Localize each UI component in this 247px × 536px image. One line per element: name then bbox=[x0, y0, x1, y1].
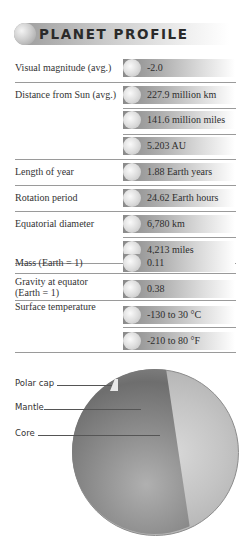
pill-ball-icon bbox=[123, 111, 141, 129]
value-text: -2.0 bbox=[147, 62, 163, 74]
value-pill: -210 to 80 °F bbox=[123, 332, 235, 350]
value-pill: 0.11 bbox=[123, 254, 235, 272]
row-label-rotation-period: Rotation period bbox=[15, 193, 78, 203]
divider bbox=[15, 185, 236, 186]
divider bbox=[15, 211, 236, 212]
pill-ball-icon bbox=[123, 215, 141, 233]
pill-ball-icon bbox=[123, 59, 141, 77]
divider bbox=[15, 352, 236, 353]
row-label-visual-magnitude: Visual magnitude (avg.) bbox=[15, 63, 111, 73]
divider bbox=[123, 327, 236, 328]
row-label-equatorial-diameter: Equatorial diameter bbox=[15, 219, 94, 229]
value-text: 0.38 bbox=[147, 283, 165, 295]
value-text: -210 to 80 °F bbox=[147, 335, 200, 347]
value-pill: -2.0 bbox=[123, 59, 235, 77]
value-text: 1.88 Earth years bbox=[147, 166, 212, 178]
pill-ball-icon bbox=[123, 163, 141, 181]
pill-ball-icon bbox=[123, 254, 141, 272]
value-pill: 6,780 km bbox=[123, 215, 235, 233]
value-pill: 227.9 million km bbox=[123, 86, 235, 104]
pill-ball-icon bbox=[123, 332, 141, 350]
pill-ball-icon bbox=[123, 137, 141, 155]
value-text: 227.9 million km bbox=[147, 89, 216, 101]
leader-line bbox=[44, 409, 141, 410]
leader-line bbox=[38, 435, 160, 436]
value-text: 24.62 Earth hours bbox=[147, 192, 218, 204]
value-text: 0.11 bbox=[147, 257, 164, 269]
value-pill: 24.62 Earth hours bbox=[123, 189, 235, 207]
value-text: 5.203 AU bbox=[147, 140, 186, 152]
value-text: -130 to 30 °C bbox=[147, 309, 201, 321]
divider bbox=[15, 273, 236, 274]
value-pill: 0.38 bbox=[123, 280, 235, 298]
value-pill: 5.203 AU bbox=[123, 137, 235, 155]
pill-ball-icon bbox=[123, 189, 141, 207]
header-ball-icon bbox=[14, 23, 36, 45]
leader-line bbox=[57, 385, 112, 386]
divider bbox=[123, 108, 236, 109]
pill-ball-icon bbox=[123, 280, 141, 298]
row-label-length-of-year: Length of year bbox=[15, 167, 74, 177]
value-pill: -130 to 30 °C bbox=[123, 306, 235, 324]
row-label-distance: Distance from Sun (avg.) bbox=[15, 90, 116, 100]
divider bbox=[123, 134, 236, 135]
planet-profile-header: PLANET PROFILE bbox=[14, 23, 229, 45]
diagram-label-polar-cap: Polar cap bbox=[15, 378, 54, 388]
value-pill: 1.88 Earth years bbox=[123, 163, 235, 181]
pill-ball-icon bbox=[123, 86, 141, 104]
value-text: 6,780 km bbox=[147, 218, 185, 230]
page-title: PLANET PROFILE bbox=[39, 26, 189, 42]
value-text: 141.6 million miles bbox=[147, 114, 225, 126]
row-label-gravity: Gravity at equator (Earth = 1) bbox=[15, 276, 115, 298]
diagram-label-core: Core bbox=[15, 428, 35, 438]
value-pill: 141.6 million miles bbox=[123, 111, 235, 129]
divider bbox=[15, 159, 236, 160]
pill-ball-icon bbox=[123, 306, 141, 324]
row-label-mass: Mass (Earth = 1) bbox=[15, 258, 83, 268]
divider bbox=[123, 237, 236, 238]
divider bbox=[15, 82, 236, 83]
diagram-label-mantle: Mantle bbox=[15, 402, 44, 412]
row-label-surface-temperature: Surface temperature bbox=[15, 302, 96, 312]
